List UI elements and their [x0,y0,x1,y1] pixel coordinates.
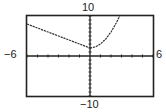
ymax-label: 10 [82,2,94,13]
xmax-label: 6 [156,49,162,60]
xmin-label: −6 [4,49,17,60]
axes [27,16,153,96]
function-curve [27,16,120,48]
ymin-label: −10 [80,99,99,110]
graph-window [0,0,166,112]
